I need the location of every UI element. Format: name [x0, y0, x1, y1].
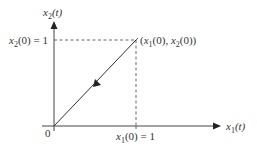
- initial-point-label: (x1(0), x2(0)): [140, 34, 197, 49]
- x-axis-label: x1(t): [225, 120, 246, 135]
- x-axis-arrowhead-icon: [213, 123, 221, 130]
- x-tick-label: x1(0) = 1: [115, 130, 155, 145]
- initial-point-pointer: [133, 38, 138, 43]
- y-tick-label: x2(0) = 1: [8, 34, 48, 49]
- origin-label: 0: [45, 127, 51, 139]
- y-axis-arrowhead-icon: [51, 21, 58, 29]
- phase-plane-diagram: x2(t) x1(t) 0 x2(0) = 1 x1(0) = 1 (x1(0)…: [0, 0, 257, 150]
- y-axis-label: x2(t): [42, 6, 63, 21]
